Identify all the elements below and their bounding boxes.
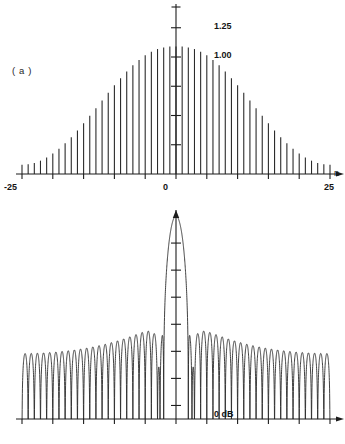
- panel-b-frequency-domain: (b) 0 dB -20 -40 -25 25 f: [0, 200, 345, 444]
- panel-a-xaxis-name: n: [334, 168, 339, 178]
- panel-a-xtick-zero: 0: [163, 182, 168, 192]
- panel-a-time-domain: ( a ) 1.25 1.00 -25 0 25 n: [0, 0, 345, 200]
- panel-b-value-label-0db: 0 dB: [214, 409, 234, 419]
- panel-a-value-label-100: 1.00: [214, 50, 232, 60]
- figure-window-and-spectrum: ( a ) 1.25 1.00 -25 0 25 n (b) 0 dB -20 …: [0, 0, 345, 444]
- panel-b-plot-area: [0, 200, 345, 444]
- panel-a-tag: ( a ): [12, 65, 32, 76]
- panel-a-xtick-max: 25: [324, 182, 334, 192]
- panel-a-value-label-125: 1.25: [214, 21, 232, 31]
- panel-a-xtick-min: -25: [4, 182, 17, 192]
- panel-a-plot-area: [0, 0, 345, 200]
